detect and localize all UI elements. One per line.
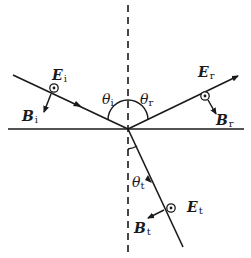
transmitted-b-label: Bt (133, 220, 151, 237)
transmitted-e-label: Et (186, 199, 203, 216)
transmitted-b-field-arrow-icon (148, 210, 164, 218)
reflected-angle-label: θr (140, 91, 153, 108)
reflected-e-field-out-of-page-icon (201, 92, 209, 100)
reflection-refraction-diagram: Ei Bi θi Er Br θr Et Bt θt (0, 0, 251, 258)
transmitted-e-field-out-of-page-icon (167, 204, 175, 212)
transmitted-angle-arc (128, 146, 137, 149)
incident-direction-arrow-icon (73, 101, 82, 107)
incident-e-field-out-of-page-icon (50, 84, 58, 92)
incident-angle-label: θi (102, 91, 114, 108)
incident-b-field-arrow-icon (44, 94, 51, 112)
incident-b-label: Bi (21, 108, 38, 125)
reflected-b-field-arrow-icon (208, 100, 216, 114)
reflected-e-label: Er (197, 64, 215, 81)
reflected-b-label: Br (215, 112, 234, 129)
incident-e-label: Ei (51, 67, 67, 84)
transmitted-angle-label: θt (132, 174, 144, 191)
